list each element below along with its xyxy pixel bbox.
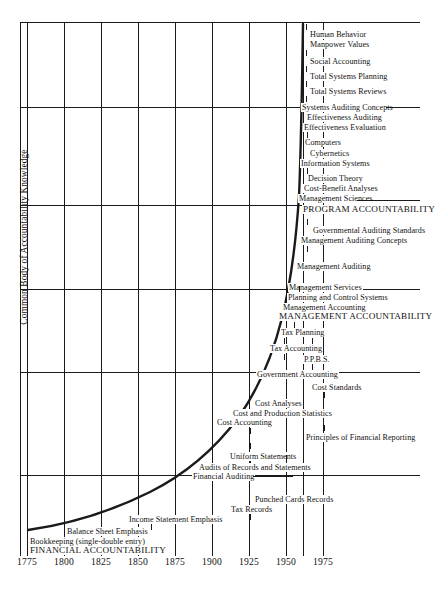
event-label: MANAGEMENT ACCOUNTABILITY xyxy=(278,312,433,321)
event-label: Management Auditing xyxy=(296,262,372,271)
event-label: Tax Planning xyxy=(280,328,325,337)
event-label: Uniform Statements xyxy=(229,452,297,461)
event-label: P.P.B.S. xyxy=(303,355,331,364)
gridline-horizontal xyxy=(20,107,300,108)
event-tick xyxy=(307,246,308,252)
event-label: Information Systems xyxy=(300,159,371,168)
event-tick xyxy=(286,392,287,398)
event-label: Principles of Financial Reporting xyxy=(305,433,416,442)
event-tick xyxy=(303,272,304,278)
event-label: Financial Auditing xyxy=(192,472,255,481)
event-tick xyxy=(306,50,307,56)
event-tick xyxy=(306,96,307,102)
event-tick xyxy=(284,354,285,360)
x-tick-label: 1825 xyxy=(81,556,121,567)
event-label: Social Accounting xyxy=(309,57,371,66)
event-tick xyxy=(151,524,152,530)
event-label: Total Systems Planning xyxy=(309,72,388,81)
event-label: Cost Accounting xyxy=(216,418,273,427)
x-axis: 1775 1800 1825 1850 1875 1900 1925 1950 … xyxy=(0,556,422,578)
event-label: Cost Analyses xyxy=(254,399,303,408)
event-label: Government Accounting xyxy=(256,370,339,379)
event-tick xyxy=(306,24,307,30)
event-tick xyxy=(306,81,307,87)
event-label: Audits of Records and Statements xyxy=(198,463,312,472)
event-label: Cybernetics xyxy=(309,149,350,158)
event-tick xyxy=(250,443,251,449)
event-tick xyxy=(306,66,307,72)
x-tick-label: 1925 xyxy=(229,556,269,567)
event-label: Decision Theory xyxy=(307,174,364,183)
x-tick-label: 1900 xyxy=(192,556,232,567)
event-label: Cost Standards xyxy=(311,383,363,392)
event-tick xyxy=(324,392,325,398)
event-label: Effectiveness Evaluation xyxy=(303,123,387,132)
x-tick-label: 1800 xyxy=(44,556,84,567)
x-tick-label: 1875 xyxy=(155,556,195,567)
event-label: Management Sciences xyxy=(298,194,374,203)
event-tick xyxy=(286,504,287,510)
event-leader-line xyxy=(253,476,293,477)
event-leader-line xyxy=(386,107,420,108)
event-tick xyxy=(307,219,308,225)
gridline-horizontal xyxy=(20,22,420,23)
event-label: Governmental Auditing Standards xyxy=(312,226,426,235)
event-label: Effectiveness Auditing xyxy=(306,113,383,122)
event-tick xyxy=(250,428,251,434)
event-label: Tax Records xyxy=(230,505,273,514)
gridline-horizontal xyxy=(20,372,420,373)
event-label: Total Systems Reviews xyxy=(309,87,387,96)
event-label: Punched Cards Records xyxy=(254,495,334,504)
event-tick xyxy=(299,286,300,292)
event-tick xyxy=(286,428,287,434)
event-tick xyxy=(250,514,251,520)
event-label: Systems Auditing Concepts xyxy=(301,103,394,112)
event-label: PROGRAM ACCOUNTABILITY xyxy=(302,205,436,214)
event-label: Tax Accounting xyxy=(269,344,323,353)
y-axis-label: Common Body of Accountability Knowledge xyxy=(19,117,29,357)
event-label: Planning and Control Systems xyxy=(287,293,389,302)
event-label: FINANCIAL ACCOUNTABILITY xyxy=(29,546,167,555)
event-tick xyxy=(286,455,287,461)
x-tick-label: 1950 xyxy=(266,556,306,567)
x-tick-label: 1850 xyxy=(118,556,158,567)
event-label: Manpower Values xyxy=(309,40,370,49)
event-label: Human Behavior xyxy=(309,30,367,39)
event-label: Cost and Production Statistics xyxy=(232,409,333,418)
x-tick-label: 1975 xyxy=(303,556,343,567)
event-leader-line xyxy=(357,200,420,201)
event-label: Cost-Benefit Analyses xyxy=(303,184,379,193)
event-label: Balance Sheet Emphasis xyxy=(66,527,149,536)
event-tick xyxy=(324,425,325,431)
event-label: Computers xyxy=(304,138,342,147)
event-label: Income Statement Emphasis xyxy=(128,515,223,524)
event-label: Management Auditing Concepts xyxy=(300,236,408,245)
x-tick-label: 1775 xyxy=(7,556,47,567)
